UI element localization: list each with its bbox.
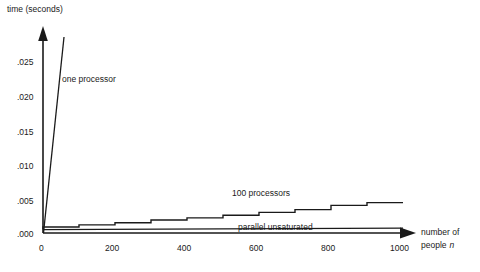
x-tick-label-1000: 1000 (390, 243, 409, 253)
y-tick-label-010: .010 (17, 161, 34, 171)
x-tick-label-600: 600 (249, 243, 263, 253)
y-tick-label-000: .000 (17, 229, 34, 239)
series-hundred-processors-step (43, 203, 403, 230)
x-axis-arrowhead (400, 227, 416, 238)
x-tick-label-200: 200 (105, 243, 119, 253)
x-axis-title-people: people (421, 240, 447, 250)
y-tick-label-020: .020 (17, 92, 34, 102)
y-tick-label-025: .025 (17, 57, 34, 67)
x-axis-title-variable-n: n (450, 240, 455, 250)
annotation-one-processor: one processor (62, 74, 116, 84)
x-axis-title-line2: peoplen (421, 240, 454, 251)
chart-figure: time (seconds) one processor 100 process… (0, 0, 480, 272)
series-parallel-unsaturated-line (43, 228, 403, 229)
x-tick-label-400: 400 (177, 243, 191, 253)
x-tick-label-800: 800 (321, 243, 335, 253)
annotation-hundred-processors: 100 processors (232, 188, 290, 198)
y-axis-arrowhead (38, 26, 48, 41)
x-axis-title-line1: number of (421, 227, 459, 238)
y-tick-label-015: .015 (17, 127, 34, 137)
series-one-processor-line (44, 37, 65, 233)
x-tick-label-0: 0 (39, 243, 44, 253)
annotation-parallel-unsaturated: parallel unsaturated (238, 222, 313, 232)
axis-lines (43, 36, 404, 233)
y-tick-label-005: .005 (17, 196, 34, 206)
